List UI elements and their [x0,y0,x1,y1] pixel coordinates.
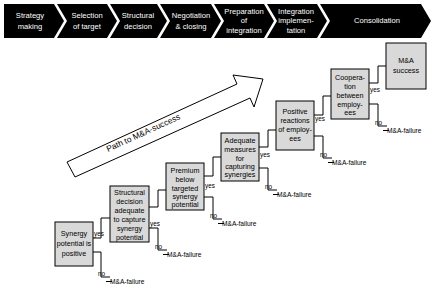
phase-label-strategy-making-line-0: Strategy [16,11,44,20]
decision-box-structural-decision-adequate-line-3: to capture [114,215,146,224]
decision-box-adequate-measures-capturing-synergies-line-1: measures [224,145,256,154]
yes-connector-step-4 [259,130,277,147]
yes-label-step-6: yes [370,86,380,94]
failure-label-step-3: M&A-failure [222,220,257,227]
no-label-step-2: no [155,243,163,250]
yes-connector-step-2 [149,190,167,207]
decision-box-premium-below-targeted-synergy-line-4: potential [171,200,199,209]
decision-box-structural-decision-adequate-line-1: decision [116,197,142,206]
decision-box-cooperation-between-employees-line-0: Coopera- [335,73,366,82]
decision-box-structural-decision-adequate-line-4: synergy [117,224,143,233]
yes-label-step-5: yes [315,115,325,123]
no-label-step-3: no [210,212,218,219]
decision-box-adequate-measures-capturing-synergies-line-4: synergies [225,170,256,179]
phase-label-integration-implementation-line-0: Integration [278,7,314,16]
phase-label-preparation-of-integration-line-2: integration [226,26,261,35]
terminal-label-m-and-a-success-line-1: success [393,66,419,75]
phase-label-consolidation-line-0: Consolidation [354,16,400,25]
phase-label-negotiation-closing-line-1: & closing [176,22,207,31]
phase-label-integration-implementation-line-2: tation [287,26,306,35]
decision-box-synergy-potential-positive-line-0: Synergy [61,229,88,238]
decision-box-synergy-potential-positive-line-2: positive [62,249,86,258]
terminal-m-and-a-success: M&A success [386,43,426,89]
decision-box-positive-reactions-of-employees-line-3: ees [289,134,301,143]
yes-connector-step-6 [369,66,387,83]
yes-label-step-4: yes [260,151,270,159]
terminal-label-m-and-a-success-line-0: M&A [398,56,414,65]
phase-label-preparation-of-integration-line-1: of [241,16,248,25]
yes-label-step-1: yes [94,230,104,238]
no-label-step-6: no [375,119,383,126]
phase-label-structural-decision-line-1: decision [124,22,152,31]
decision-box-cooperation-between-employees-line-4: ees [344,108,356,117]
decision-box-premium-below-targeted-synergy-line-1: below [176,175,196,184]
ma-success-path-diagram: Strategy making Selection of target Stru… [0,0,435,289]
decision-box-positive-reactions-of-employees-line-1: reactions [280,116,310,125]
phase-label-selection-of-target-line-1: of target [73,22,102,31]
decision-box-cooperation-between-employees-line-1: tion [344,82,356,91]
decision-box-cooperation-between-employees-line-2: between [336,91,363,100]
phase-chevron-selection-of-target[interactable] [57,4,117,38]
phase-label-selection-of-target-line-0: Selection [71,11,102,20]
phase-label-structural-decision-line-0: Structural [122,11,155,20]
phase-label-strategy-making-line-1: making [18,22,42,31]
failure-label-step-5: M&A-failure [332,159,367,166]
phase-label-integration-implementation-line-1: implemen- [278,16,314,25]
decision-box-positive-reactions-of-employees-line-2: of employ- [278,125,312,134]
failure-label-step-1: M&A-failure [110,278,145,285]
phase-label-negotiation-closing-line-0: Negotiation [172,11,210,20]
decision-box-positive-reactions-of-employees-line-0: Positive [282,107,307,116]
phase-label-preparation-of-integration-line-0: Preparation [224,7,263,16]
yes-label-step-3: yes [205,182,215,190]
no-label-step-1: no [98,270,106,277]
decision-box-synergy-potential-positive-line-1: potential is [57,239,92,248]
phase-chevron-structural-decision[interactable] [110,4,167,38]
phase-chevron-strategy-making[interactable] [4,4,64,38]
decision-box-premium-below-targeted-synergy-line-0: Premium [171,166,200,175]
path-arrow-label: Path to M&A-success [105,112,182,154]
failure-label-step-6: M&A-failure [387,127,422,134]
no-label-step-5: no [320,151,328,158]
decision-box-structural-decision-adequate-line-0: Structural [114,188,145,197]
diagram-canvas: Strategy making Selection of target Stru… [0,0,435,289]
yes-label-step-2: yes [150,220,160,228]
decision-box-structural-decision-adequate-line-2: adequate [115,206,145,215]
no-label-step-4: no [265,183,273,190]
failure-label-step-2: M&A-failure [167,251,202,258]
yes-connector-step-3 [204,157,222,176]
yes-connector-step-5 [314,96,332,115]
phase-chevron-negotiation-closing[interactable] [160,4,221,38]
decision-box-structural-decision-adequate-line-5: potential [116,233,144,242]
phase-band: Strategy making Selection of target Stru… [4,4,431,38]
failure-label-step-4: M&A-failure [277,191,312,198]
decision-box-adequate-measures-capturing-synergies-line-0: Adequate [225,136,256,145]
